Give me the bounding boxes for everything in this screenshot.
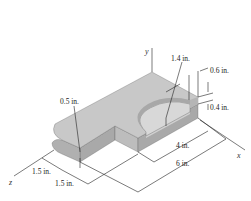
y-axis-label: y	[144, 47, 149, 56]
dim-x-short: 4 in.	[176, 141, 189, 150]
dim-z-2: 1.5 in.	[55, 179, 74, 188]
dim-step-width: 0.6 in.	[210, 66, 229, 75]
dim-corner-radius: 0.5 in.	[60, 97, 79, 106]
z-axis-label: z	[8, 178, 13, 187]
dim-hole-radius: 1.4 in.	[171, 54, 190, 63]
dim-z-1: 1.5 in.	[32, 167, 51, 176]
x-axis: x	[200, 120, 245, 160]
dim-step-depth: 0.4 in.	[210, 103, 229, 112]
dim-x-long: 6 in.	[176, 159, 189, 168]
x-axis-label: x	[236, 151, 241, 160]
isometric-part-diagram: y x z	[0, 0, 251, 201]
y-axis: y	[144, 47, 152, 72]
